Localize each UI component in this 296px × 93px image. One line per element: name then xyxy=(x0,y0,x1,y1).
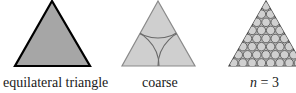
equilateral-triangle-shape xyxy=(15,1,90,66)
label-variable-n: n xyxy=(250,75,257,90)
packed-circles xyxy=(229,2,296,67)
label-coarse: coarse xyxy=(142,75,178,91)
label-n-equals-3: n = 3 xyxy=(250,75,279,91)
label-equals-value: = 3 xyxy=(257,75,279,90)
fine-triangle-shape xyxy=(229,1,296,67)
label-equilateral-triangle: equilateral triangle xyxy=(3,75,108,91)
